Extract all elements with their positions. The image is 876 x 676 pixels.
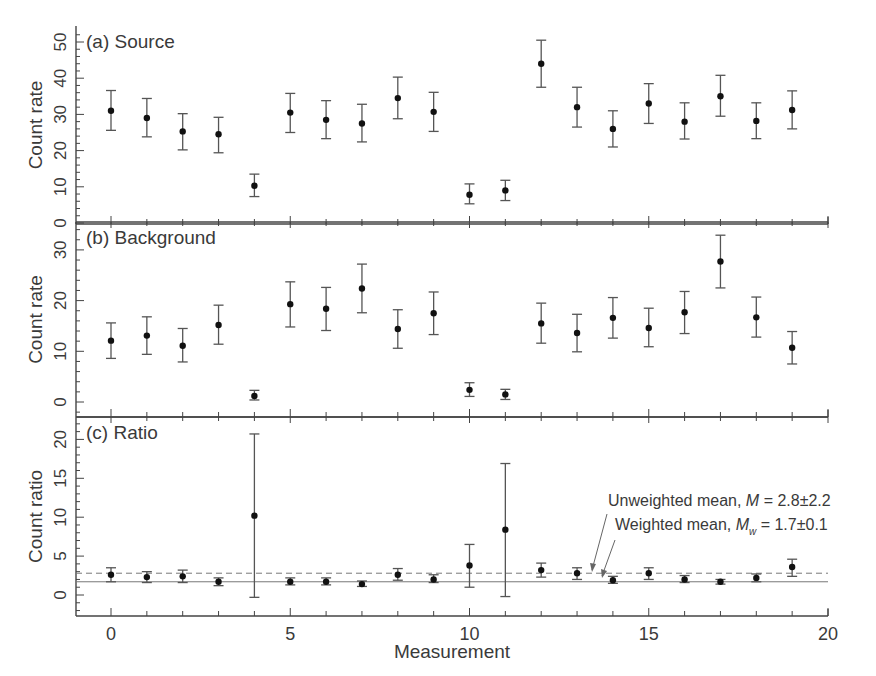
data-point bbox=[465, 544, 475, 587]
panel-title: (b) Background bbox=[86, 227, 216, 248]
data-point bbox=[680, 103, 690, 139]
data-point bbox=[357, 104, 367, 142]
y-tick-label: 10 bbox=[51, 508, 70, 527]
data-point bbox=[178, 570, 188, 582]
data-point bbox=[106, 323, 116, 358]
y-tick-label: 30 bbox=[51, 105, 70, 124]
data-point bbox=[321, 287, 331, 330]
data-point bbox=[106, 568, 116, 582]
y-axis-label: Count rate bbox=[25, 81, 46, 170]
data-point bbox=[500, 389, 510, 399]
data-point bbox=[644, 568, 654, 580]
x-axis-label: Measurement bbox=[394, 641, 511, 662]
data-point bbox=[608, 298, 618, 339]
data-point bbox=[751, 574, 761, 582]
data-point bbox=[321, 101, 331, 139]
panel-c: 05101520Count ratio(c) RatioUnweighted m… bbox=[25, 417, 831, 616]
data-point bbox=[572, 314, 582, 352]
data-point bbox=[536, 563, 546, 577]
data-point bbox=[285, 282, 295, 327]
y-tick-label: 20 bbox=[51, 430, 70, 449]
y-tick-label: 10 bbox=[51, 342, 70, 361]
data-point bbox=[608, 111, 618, 147]
y-tick-label: 50 bbox=[51, 33, 70, 52]
figure: 01020304050Count rate(a) Source0102030Co… bbox=[0, 0, 876, 676]
weighted-mean-annotation: Weighted mean, Mw = 1.7±0.1 bbox=[615, 516, 828, 537]
data-point bbox=[715, 75, 725, 116]
data-point bbox=[500, 180, 510, 200]
data-point bbox=[285, 93, 295, 132]
data-point bbox=[249, 174, 259, 196]
data-point bbox=[787, 332, 797, 364]
data-point bbox=[536, 40, 546, 87]
data-point bbox=[393, 569, 403, 581]
data-point bbox=[751, 297, 761, 337]
y-tick-label: 20 bbox=[51, 291, 70, 310]
data-point bbox=[393, 77, 403, 119]
x-tick-label: 15 bbox=[639, 624, 659, 644]
data-point bbox=[142, 98, 152, 136]
y-tick-label: 20 bbox=[51, 141, 70, 160]
data-point bbox=[178, 328, 188, 361]
panel-b: 0102030Count rate(b) Background bbox=[25, 222, 828, 417]
data-point bbox=[536, 303, 546, 343]
data-point bbox=[393, 310, 403, 349]
data-point bbox=[608, 576, 618, 583]
x-tick-label: 20 bbox=[818, 624, 838, 644]
data-point bbox=[142, 317, 152, 355]
data-point bbox=[249, 390, 259, 400]
data-point bbox=[178, 114, 188, 150]
x-tick-label: 5 bbox=[285, 624, 295, 644]
unweighted-arrow bbox=[592, 514, 607, 570]
y-axis-label: Count ratio bbox=[25, 470, 46, 563]
y-tick-label: 30 bbox=[51, 240, 70, 259]
y-tick-label: 0 bbox=[51, 590, 70, 599]
y-tick-label: 40 bbox=[51, 69, 70, 88]
y-tick-label: 0 bbox=[51, 397, 70, 406]
data-point bbox=[214, 117, 224, 152]
data-point bbox=[787, 91, 797, 129]
data-point bbox=[429, 92, 439, 131]
data-point bbox=[644, 308, 654, 347]
y-tick-label: 15 bbox=[51, 469, 70, 488]
data-point bbox=[357, 264, 367, 313]
y-tick-label: 10 bbox=[51, 177, 70, 196]
x-tick-label: 0 bbox=[106, 624, 116, 644]
data-point bbox=[680, 291, 690, 333]
data-point bbox=[751, 103, 761, 139]
unweighted-mean-annotation: Unweighted mean, M = 2.8±2.2 bbox=[608, 492, 831, 509]
data-point bbox=[787, 559, 797, 576]
data-point bbox=[572, 87, 582, 127]
panel-title: (c) Ratio bbox=[86, 422, 158, 443]
panel-title: (a) Source bbox=[86, 31, 175, 52]
y-tick-label: 5 bbox=[51, 551, 70, 560]
y-tick-label: 0 bbox=[51, 218, 70, 227]
panel-a: 01020304050Count rate(a) Source bbox=[25, 26, 828, 228]
y-axis-label: Count rate bbox=[25, 275, 46, 364]
data-point bbox=[429, 292, 439, 335]
data-point bbox=[465, 184, 475, 204]
data-point bbox=[500, 464, 510, 597]
data-point bbox=[106, 91, 116, 131]
data-point bbox=[715, 235, 725, 288]
data-point bbox=[214, 305, 224, 344]
panels: 01020304050Count rate(a) Source0102030Co… bbox=[25, 26, 838, 644]
data-point bbox=[465, 383, 475, 397]
data-point bbox=[644, 84, 654, 124]
